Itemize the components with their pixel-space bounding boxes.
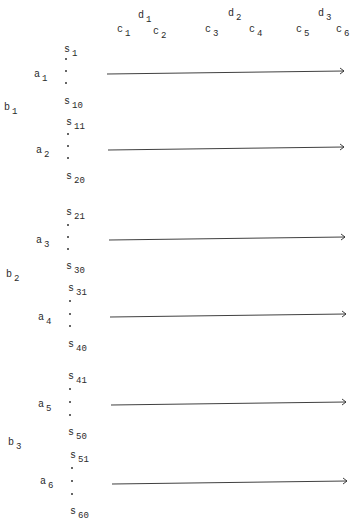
mapping-arrow xyxy=(112,478,347,484)
mapping-arrow xyxy=(109,234,345,240)
mapping-arrow xyxy=(110,311,346,317)
arrow-shaft xyxy=(108,147,344,150)
arrow-shaft xyxy=(111,402,346,405)
mapping-arrow xyxy=(111,399,346,405)
mapping-arrow xyxy=(108,144,344,150)
arrow-shaft xyxy=(112,481,347,484)
mapping-arrow xyxy=(107,68,344,74)
arrow-shaft xyxy=(107,71,344,74)
arrow-shaft xyxy=(109,237,345,240)
arrow-layer xyxy=(0,0,353,519)
arrow-shaft xyxy=(110,314,346,317)
